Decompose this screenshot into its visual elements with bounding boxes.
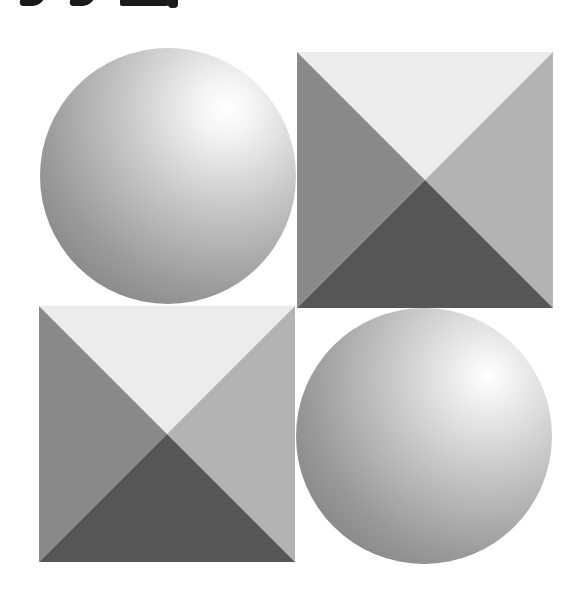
sphere-top-left [40,48,296,304]
pyramid-square-bottom-left [39,306,295,562]
pyramid-square-top-right [297,52,553,308]
shapes-figure [0,0,582,601]
sphere-bottom-right [296,308,552,564]
